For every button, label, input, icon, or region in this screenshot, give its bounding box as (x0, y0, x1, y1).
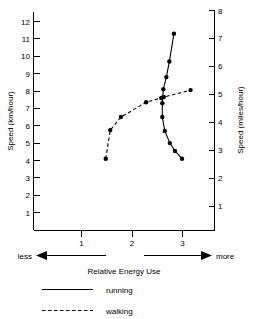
left-tick-label-1: 1 (26, 209, 31, 218)
chart-legend: running walking (42, 286, 133, 316)
data-point (172, 31, 176, 35)
right-axis-title: Speed (miles/hour) (236, 86, 245, 154)
x-tick-label-2: 2 (130, 239, 135, 248)
left-tick-label-10: 10 (21, 52, 30, 61)
less-label: less (18, 252, 32, 261)
left-tick-label-11: 11 (22, 35, 31, 44)
x-tick-label-3: 3 (180, 239, 185, 248)
data-point (144, 100, 148, 104)
data-point (173, 149, 177, 153)
data-point (188, 88, 192, 92)
data-point (108, 128, 112, 132)
right-axis-ticks (209, 11, 215, 207)
data-point (163, 129, 167, 133)
left-tick-label-4: 4 (26, 157, 31, 166)
legend-label-walking: walking (105, 307, 133, 316)
data-point (104, 157, 108, 161)
data-point (164, 75, 168, 79)
x-tick-label-1: 1 (79, 239, 84, 248)
data-point (119, 115, 123, 119)
right-tick-label-1: 1 (218, 202, 223, 211)
series-walking (104, 88, 193, 161)
left-tick-label-3: 3 (26, 174, 31, 183)
left-axis-ticks (34, 22, 40, 213)
x-axis-ticks (82, 231, 183, 237)
left-tick-label-2: 2 (26, 191, 31, 200)
less-arrow-head (36, 251, 47, 260)
left-tick-label-8: 8 (26, 87, 31, 96)
more-label: more (216, 252, 235, 261)
right-tick-label-7: 7 (218, 34, 223, 43)
right-tick-label-3: 3 (218, 146, 223, 155)
right-y-axis: 8 7 6 5 4 3 2 1 Speed (miles/hour) (209, 7, 246, 231)
data-point (160, 115, 164, 119)
speed-vs-energy-line-chart: 12 11 10 9 8 7 6 5 4 3 2 1 Speed (km/hou… (0, 0, 256, 319)
right-tick-label-8: 8 (218, 7, 223, 16)
more-arrow-head (201, 251, 212, 260)
data-point (180, 157, 184, 161)
walking-markers (104, 88, 193, 161)
right-tick-label-2: 2 (218, 174, 223, 183)
data-point (168, 141, 172, 145)
right-tick-label-6: 6 (218, 62, 223, 71)
data-point (167, 59, 171, 63)
left-axis-title: Speed (km/hour) (6, 91, 15, 151)
left-tick-label-5: 5 (26, 139, 31, 148)
chart-figure: 12 11 10 9 8 7 6 5 4 3 2 1 Speed (km/hou… (0, 0, 256, 319)
data-point (160, 101, 164, 105)
right-tick-label-4: 4 (218, 118, 223, 127)
left-tick-label-12: 12 (21, 18, 30, 27)
walking-line (106, 90, 191, 159)
left-tick-label-6: 6 (26, 122, 31, 131)
left-tick-label-7: 7 (26, 104, 31, 113)
left-tick-label-9: 9 (26, 70, 31, 79)
legend-item-running: running (42, 286, 133, 295)
right-tick-label-5: 5 (218, 90, 223, 99)
energy-direction-indicator: less more (18, 251, 235, 261)
data-point (161, 87, 165, 91)
legend-item-walking: walking (42, 307, 133, 316)
x-axis: 1 2 3 less more Relative Energy Use (18, 231, 235, 277)
left-y-axis: 12 11 10 9 8 7 6 5 4 3 2 1 Speed (km/hou… (6, 12, 40, 230)
legend-label-running: running (106, 286, 133, 295)
x-axis-title: Relative Energy Use (88, 267, 161, 276)
